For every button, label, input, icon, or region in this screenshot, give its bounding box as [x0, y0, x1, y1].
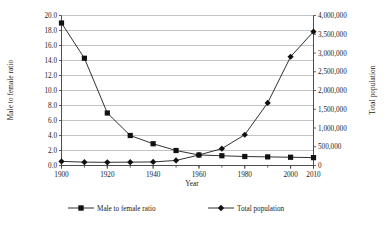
data-point-marker [104, 159, 110, 165]
data-point-marker [128, 133, 133, 138]
y-axis-right-tick-label: 3,000,000 [318, 50, 347, 58]
data-point-marker [311, 155, 316, 160]
x-axis-tick-label: 1980 [238, 171, 253, 179]
data-point-marker [151, 141, 156, 146]
data-point-marker [242, 132, 248, 138]
data-series [58, 20, 316, 165]
legend-label: Total population [237, 205, 285, 213]
chart-container: Male to female ratio Total population Ye… [0, 0, 384, 226]
x-axis-tick-label: 2010 [306, 171, 321, 179]
data-point-marker [219, 153, 224, 158]
data-point-marker [242, 154, 247, 159]
y-axis-left-tick-label: 8.0 [48, 102, 57, 110]
legend-marker [78, 205, 83, 210]
x-axis-tick-label: 2000 [283, 171, 298, 179]
data-point-marker [173, 157, 179, 163]
y-axis-left-tick-label: 18.0 [44, 27, 57, 35]
y-axis-left-tick-label: 16.0 [44, 42, 57, 50]
y-axis-right-tick-label: 2,500,000 [318, 68, 347, 76]
data-point-marker [58, 158, 64, 164]
y-axis-left-tick-label: 10.0 [44, 87, 57, 95]
x-axis-tick-label: 1960 [192, 171, 207, 179]
data-point-marker [127, 159, 133, 165]
y-axis-left-tick-label: 0.0 [48, 162, 57, 170]
data-point-marker [59, 20, 64, 25]
y-axis-left-tick-labels: 0.02.04.06.08.010.012.014.016.018.020.0 [44, 12, 57, 170]
data-point-marker [105, 110, 110, 115]
legend-marker [218, 205, 224, 211]
x-axis-tick-label: 1900 [54, 171, 69, 179]
y-axis-right-tick-label: 3,500,000 [318, 31, 347, 39]
legend-label: Male to female ratio [97, 205, 156, 213]
series-line-2 [62, 32, 314, 163]
y-axis-right-tick-label: 500,000 [318, 143, 342, 151]
x-axis-tick-labels: 1900192019401960198020002010 [54, 171, 321, 179]
x-axis-tick-label: 1920 [100, 171, 115, 179]
plot-area: 0.02.04.06.08.010.012.014.016.018.020.0 … [0, 0, 384, 226]
y-axis-right-tick-label: 0 [318, 162, 322, 170]
y-axis-left-tick-label: 12.0 [44, 72, 57, 80]
axis-ticks [59, 16, 316, 169]
y-axis-left-tick-label: 14.0 [44, 57, 57, 65]
y-axis-right-tick-labels: 0500,0001,000,0001,500,0002,000,0002,500… [318, 12, 347, 170]
y-axis-left-tick-label: 20.0 [44, 12, 57, 20]
y-axis-left-tick-label: 6.0 [48, 117, 57, 125]
y-axis-left-tick-label: 4.0 [48, 132, 57, 140]
gridlines [62, 16, 314, 151]
y-axis-right-tick-label: 1,000,000 [318, 125, 347, 133]
chart-legend: Male to female ratioTotal population [68, 205, 285, 213]
y-axis-right-tick-label: 4,000,000 [318, 12, 347, 20]
y-axis-right-tick-label: 1,500,000 [318, 106, 347, 114]
y-axis-right-tick-label: 2,000,000 [318, 87, 347, 95]
data-point-marker [265, 100, 271, 106]
data-point-marker [150, 159, 156, 165]
data-point-marker [288, 155, 293, 160]
data-point-marker [82, 56, 87, 61]
x-axis-tick-label: 1940 [146, 171, 161, 179]
data-point-marker [265, 154, 270, 159]
data-point-marker [173, 148, 178, 153]
data-point-marker [81, 159, 87, 165]
y-axis-left-tick-label: 2.0 [48, 147, 57, 155]
